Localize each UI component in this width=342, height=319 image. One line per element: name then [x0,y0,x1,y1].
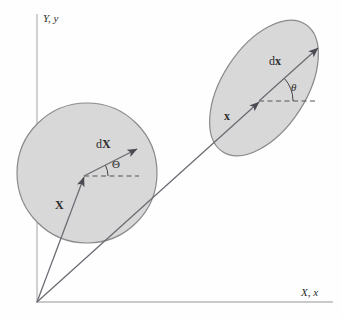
figure-canvas: Y, y X, x X dX x dx Θ θ [0,0,342,319]
vector-label-x: x [224,109,230,123]
vector-label-X: X [55,198,64,212]
deformation-diagram-svg: Y, y X, x X dX x dx Θ θ [0,0,342,319]
angle-label-theta-reference: Θ [112,158,120,170]
vector-label-dX: dX [96,137,111,151]
vector-label-dx-bold: x [275,54,281,68]
bodies-group [17,1,341,243]
vector-label-dX-bold: X [102,137,111,151]
y-axis-label: Y, y [43,12,59,24]
angle-label-theta-current: θ [291,81,297,93]
vector-label-dx: dx [269,54,281,68]
current-configuration-ellipse [187,1,340,174]
reference-configuration-circle [17,103,157,243]
x-axis-label: X, x [300,286,318,298]
